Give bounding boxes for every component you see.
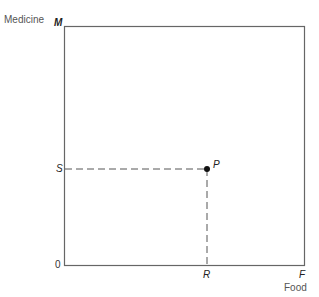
point-p-marker	[204, 166, 210, 172]
x-axis-label: Food	[284, 283, 307, 293]
y-axis-label: Medicine	[4, 15, 44, 25]
point-label: P	[213, 160, 220, 170]
point-x-label: R	[203, 270, 210, 280]
x-max-label: F	[299, 270, 305, 280]
bounding-box	[65, 27, 305, 266]
y-max-label: M	[54, 18, 62, 28]
diagram-canvas	[0, 0, 319, 297]
origin-label: 0	[55, 260, 61, 270]
point-y-label: S	[56, 164, 63, 174]
